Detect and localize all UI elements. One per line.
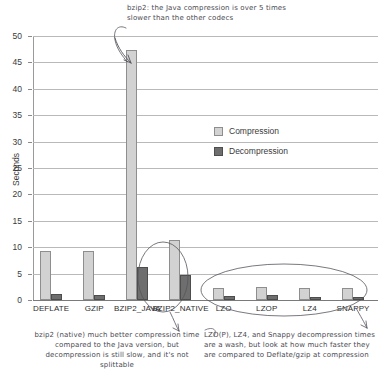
- gridline: [33, 36, 378, 37]
- y-tick-mark: [28, 142, 32, 143]
- y-tick-label: 20: [0, 190, 22, 199]
- bar-bzip2_java-decompression: [137, 267, 148, 300]
- bar-lz4-decompression: [310, 297, 321, 300]
- gridline: [33, 62, 378, 63]
- x-axis-line: [33, 300, 378, 301]
- bar-lzo-decompression: [224, 296, 235, 300]
- y-tick-mark: [28, 168, 32, 169]
- legend-label-decompression: Decompression: [229, 146, 288, 156]
- annotation-bzip2-java: bzip2: the Java compression is over 5 ti…: [127, 3, 307, 23]
- chart-legend: Compression Decompression: [214, 126, 288, 166]
- y-tick-label: 25: [0, 164, 22, 173]
- bar-lzop-compression: [256, 287, 267, 300]
- y-tick-label: 15: [0, 217, 22, 226]
- bar-bzip2_java-compression: [126, 50, 137, 300]
- bar-lzop-decompression: [267, 295, 278, 300]
- bar-lzo-compression: [213, 288, 224, 300]
- y-tick-mark: [28, 247, 32, 248]
- bar-gzip-compression: [83, 251, 94, 300]
- y-tick-label: 45: [0, 58, 22, 67]
- bar-deflate-decompression: [51, 294, 62, 300]
- y-tick-label: 5: [0, 270, 22, 279]
- legend-swatch-compression-icon: [214, 127, 223, 136]
- gridline: [33, 247, 378, 248]
- x-tick-label-snappy: SNAPPY: [313, 304, 384, 313]
- bar-bzip2_native-decompression: [180, 275, 191, 300]
- bar-deflate-compression: [40, 251, 51, 300]
- annotation-bzip2-native: bzip2 (native) much better compression t…: [32, 330, 202, 371]
- gridline: [33, 221, 378, 222]
- gridline: [33, 168, 378, 169]
- y-tick-mark: [28, 221, 32, 222]
- y-tick-mark: [28, 274, 32, 275]
- gridline: [33, 89, 378, 90]
- y-tick-mark: [28, 300, 32, 301]
- gridline: [33, 115, 378, 116]
- bar-snappy-compression: [342, 288, 353, 300]
- legend-item-decompression: Decompression: [214, 146, 288, 156]
- legend-label-compression: Compression: [229, 126, 279, 136]
- bar-snappy-decompression: [353, 297, 364, 300]
- plot-area: 05101520253035404550: [33, 36, 378, 300]
- y-tick-label: 50: [0, 32, 22, 41]
- chart-root: Seconds 05101520253035404550 DEFLATEGZIP…: [0, 0, 384, 376]
- y-tick-label: 30: [0, 138, 22, 147]
- bar-gzip-decompression: [94, 295, 105, 300]
- bar-bzip2_native-compression: [169, 240, 180, 300]
- y-tick-mark: [28, 89, 32, 90]
- legend-item-compression: Compression: [214, 126, 288, 136]
- annotation-fast-codecs: LZO(P), LZ4, and Snappy decompression ti…: [204, 330, 379, 360]
- legend-swatch-decompression-icon: [214, 147, 223, 156]
- bar-lz4-compression: [299, 288, 310, 300]
- gridline: [33, 194, 378, 195]
- y-tick-label: 10: [0, 243, 22, 252]
- y-tick-mark: [28, 115, 32, 116]
- y-tick-label: 35: [0, 111, 22, 120]
- y-tick-mark: [28, 36, 32, 37]
- y-tick-label: 40: [0, 85, 22, 94]
- gridline: [33, 142, 378, 143]
- y-tick-mark: [28, 62, 32, 63]
- y-tick-mark: [28, 194, 32, 195]
